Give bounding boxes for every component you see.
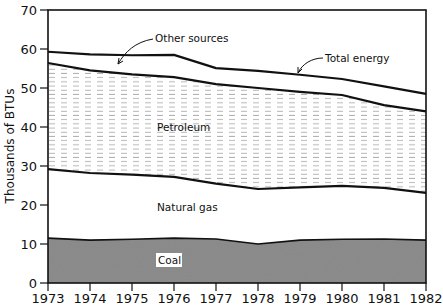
arrowhead-other-sources xyxy=(118,58,123,64)
x-tick-label: 1978 xyxy=(241,291,274,306)
x-tick-label: 1980 xyxy=(325,291,358,306)
y-tick-label: 50 xyxy=(20,81,37,96)
annotation-total-energy: Total energy xyxy=(324,52,389,64)
label-coal: Coal xyxy=(158,254,181,266)
y-axis-label: Thousands of BTUs xyxy=(3,89,17,205)
x-tick-label: 1976 xyxy=(157,291,190,306)
y-tick-label: 70 xyxy=(20,3,37,18)
y-tick-label: 30 xyxy=(20,159,37,174)
x-tick-label: 1973 xyxy=(31,291,64,306)
x-axis: 1973197419751976197719781979198019811982 xyxy=(31,283,442,306)
y-tick-label: 60 xyxy=(20,42,37,57)
x-tick-label: 1977 xyxy=(199,291,232,306)
annotation-other-sources: Other sources xyxy=(155,32,229,44)
arrow-other-sources xyxy=(118,39,153,64)
y-tick-label: 20 xyxy=(20,198,37,213)
label-petroleum: Petroleum xyxy=(157,121,210,133)
x-tick-label: 1982 xyxy=(409,291,442,306)
y-tick-label: 40 xyxy=(20,120,37,135)
arrow-total-energy xyxy=(298,58,323,73)
label-natural-gas: Natural gas xyxy=(157,201,218,213)
area-coal-stipple xyxy=(48,238,426,283)
y-axis: 010203040506070 xyxy=(20,3,48,291)
x-tick-label: 1974 xyxy=(73,291,106,306)
x-tick-label: 1979 xyxy=(283,291,316,306)
y-tick-label: 0 xyxy=(29,276,37,291)
y-tick-label: 10 xyxy=(20,237,37,252)
x-tick-label: 1975 xyxy=(115,291,148,306)
energy-consumption-chart: 010203040506070 197319741975197619771978… xyxy=(0,0,443,306)
x-tick-label: 1981 xyxy=(367,291,400,306)
